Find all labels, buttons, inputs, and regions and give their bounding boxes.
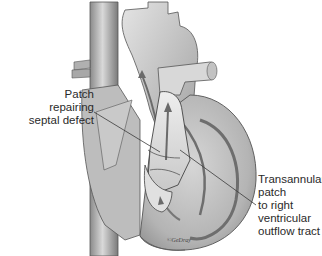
label-line: to right bbox=[258, 199, 322, 212]
label-line: outflow tract bbox=[258, 225, 322, 238]
artist-signature: ©GeDray bbox=[167, 237, 191, 243]
label-line: repairing bbox=[10, 101, 94, 114]
label-line: Transannular bbox=[258, 173, 322, 186]
label-line: Patch bbox=[10, 88, 94, 101]
label-line: ventricular bbox=[258, 212, 322, 225]
label-transannular-patch: Transannular patch to right ventricular … bbox=[258, 173, 322, 238]
label-line: septal defect bbox=[10, 114, 94, 127]
label-line: patch bbox=[258, 186, 322, 199]
label-septal-patch: Patch repairing septal defect bbox=[10, 88, 94, 127]
